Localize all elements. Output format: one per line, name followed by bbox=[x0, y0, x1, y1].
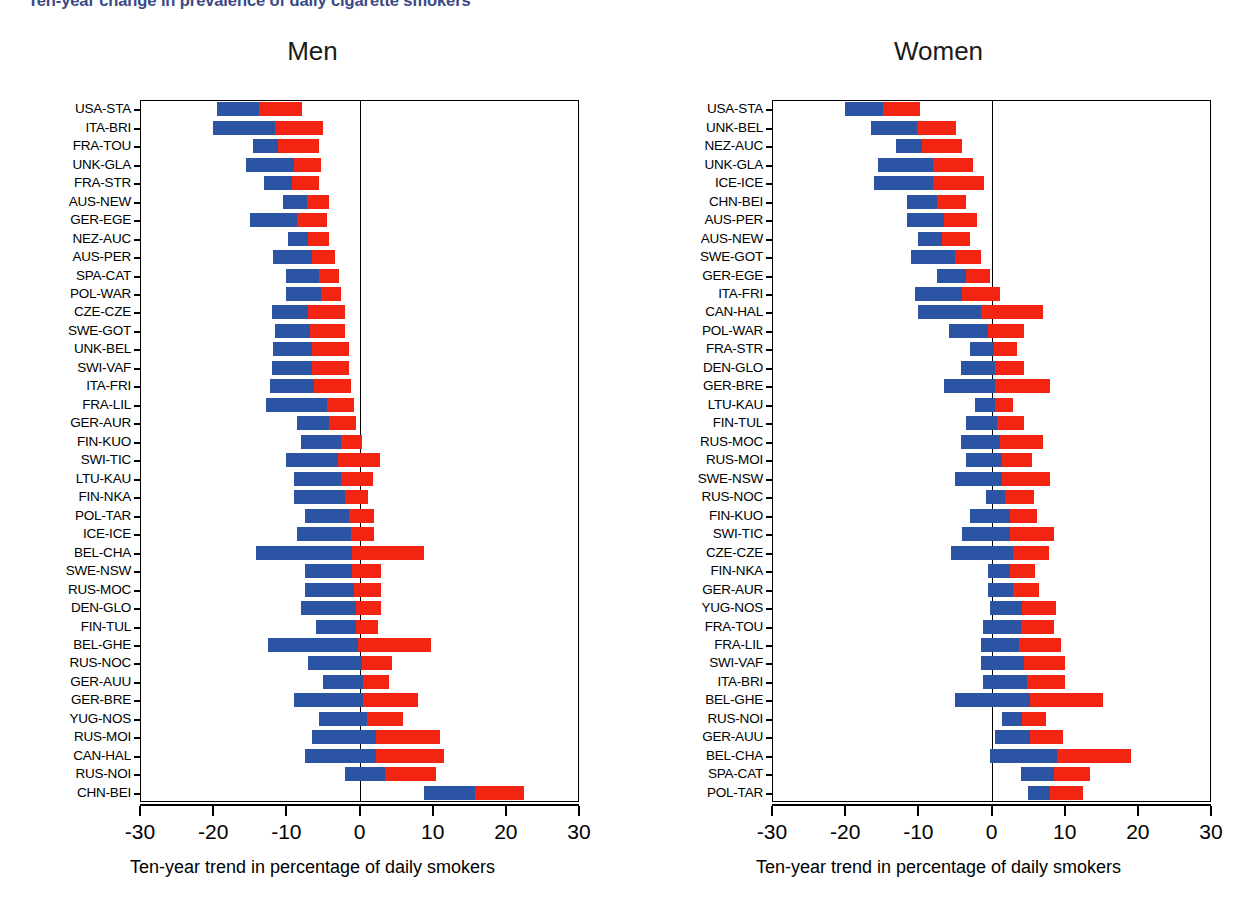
bar-row bbox=[626, 342, 1251, 356]
bar-segment-first-period bbox=[275, 324, 309, 338]
x-axis-tick bbox=[917, 806, 919, 816]
bar-segment-second-period bbox=[363, 675, 389, 689]
bar-segment-first-period bbox=[983, 675, 1027, 689]
bar-segment-first-period bbox=[268, 638, 358, 652]
bar-row bbox=[0, 250, 625, 264]
bar-row bbox=[626, 749, 1251, 763]
bar-segment-first-period bbox=[986, 490, 1005, 504]
bar-segment-first-period bbox=[981, 656, 1025, 670]
panel-women: WomenUSA-STAUNK-BELNEZ-AUCUNK-GLAICE-ICE… bbox=[626, 0, 1251, 912]
bar-segment-first-period bbox=[305, 564, 353, 578]
bar-row bbox=[626, 379, 1251, 393]
bar-segment-second-period bbox=[362, 656, 392, 670]
bar-row bbox=[0, 620, 625, 634]
bar-row bbox=[626, 324, 1251, 338]
bar-row bbox=[0, 269, 625, 283]
bar-segment-second-period bbox=[1010, 509, 1037, 523]
x-axis-tick-label: -10 bbox=[903, 820, 933, 844]
bar-row bbox=[626, 139, 1251, 153]
bar-row bbox=[626, 287, 1251, 301]
bar-segment-second-period bbox=[922, 139, 962, 153]
bar-segment-second-period bbox=[1021, 620, 1054, 634]
x-axis-title: Ten-year trend in percentage of daily sm… bbox=[0, 857, 625, 878]
bar-row bbox=[0, 490, 625, 504]
bar-segment-second-period bbox=[385, 767, 436, 781]
bar-segment-second-period bbox=[1050, 786, 1083, 800]
x-axis-tick-label: 30 bbox=[1199, 820, 1222, 844]
bar-segment-first-period bbox=[907, 195, 936, 209]
bar-segment-second-period bbox=[1000, 435, 1042, 449]
bar-segment-second-period bbox=[358, 638, 431, 652]
bar-row bbox=[0, 749, 625, 763]
bar-segment-second-period bbox=[363, 693, 418, 707]
bar-segment-first-period bbox=[424, 786, 475, 800]
bar-segment-first-period bbox=[1002, 712, 1022, 726]
bar-segment-second-period bbox=[1019, 638, 1061, 652]
bar-segment-second-period bbox=[310, 324, 345, 338]
bar-row bbox=[626, 693, 1251, 707]
bar-segment-first-period bbox=[988, 583, 1014, 597]
bar-segment-first-period bbox=[955, 472, 1003, 486]
bar-segment-second-period bbox=[338, 453, 380, 467]
bar-segment-first-period bbox=[323, 675, 363, 689]
bar-segment-second-period bbox=[1024, 656, 1064, 670]
bar-row bbox=[626, 213, 1251, 227]
bar-row bbox=[626, 675, 1251, 689]
bar-segment-second-period bbox=[345, 490, 368, 504]
bar-segment-second-period bbox=[1013, 546, 1048, 560]
x-axis-tick bbox=[505, 806, 507, 816]
bar-row bbox=[0, 564, 625, 578]
bar-row bbox=[626, 564, 1251, 578]
bar-segment-second-period bbox=[933, 176, 984, 190]
bar-segment-second-period bbox=[341, 472, 372, 486]
bar-segment-second-period bbox=[292, 176, 319, 190]
bar-row bbox=[626, 786, 1251, 800]
panel-men: MenUSA-STAITA-BRIFRA-TOUUNK-GLAFRA-STRAU… bbox=[0, 0, 625, 912]
bar-segment-second-period bbox=[995, 379, 1050, 393]
bar-segment-first-period bbox=[272, 361, 312, 375]
x-axis-tick bbox=[771, 806, 773, 816]
bar-segment-second-period bbox=[475, 786, 524, 800]
x-axis-tick bbox=[1137, 806, 1139, 816]
bar-row bbox=[626, 121, 1251, 135]
bar-segment-second-period bbox=[883, 102, 920, 116]
bar-segment-second-period bbox=[937, 195, 966, 209]
bar-segment-second-period bbox=[962, 287, 1000, 301]
bar-row bbox=[0, 342, 625, 356]
bar-segment-first-period bbox=[918, 232, 941, 246]
bar-segment-second-period bbox=[294, 158, 322, 172]
bar-segment-first-period bbox=[308, 656, 362, 670]
bar-segment-second-period bbox=[275, 121, 323, 135]
bar-segment-second-period bbox=[1022, 712, 1046, 726]
bar-segment-second-period bbox=[933, 158, 973, 172]
bar-segment-first-period bbox=[305, 583, 354, 597]
bar-segment-first-period bbox=[981, 638, 1020, 652]
bar-row bbox=[0, 379, 625, 393]
x-axis-tick bbox=[1064, 806, 1066, 816]
bar-segment-first-period bbox=[966, 416, 997, 430]
x-axis-tick-label: 0 bbox=[354, 820, 366, 844]
bar-row bbox=[0, 583, 625, 597]
bar-segment-second-period bbox=[944, 213, 977, 227]
x-axis-tick-label: -30 bbox=[757, 820, 787, 844]
bar-segment-first-period bbox=[955, 693, 1030, 707]
bar-segment-first-period bbox=[970, 342, 994, 356]
bar-row bbox=[626, 232, 1251, 246]
bar-segment-second-period bbox=[329, 416, 356, 430]
bar-segment-second-period bbox=[376, 730, 440, 744]
bar-segment-second-period bbox=[1027, 675, 1065, 689]
x-axis-tick bbox=[844, 806, 846, 816]
bar-row bbox=[0, 693, 625, 707]
bar-row bbox=[0, 102, 625, 116]
bar-row bbox=[626, 361, 1251, 375]
bar-row bbox=[0, 158, 625, 172]
bar-segment-first-period bbox=[312, 730, 376, 744]
bar-segment-first-period bbox=[1028, 786, 1050, 800]
bar-row bbox=[626, 712, 1251, 726]
bar-row bbox=[0, 656, 625, 670]
bar-row bbox=[626, 620, 1251, 634]
bar-row bbox=[626, 453, 1251, 467]
bar-row bbox=[0, 712, 625, 726]
bar-segment-second-period bbox=[981, 305, 1043, 319]
bar-row bbox=[626, 158, 1251, 172]
